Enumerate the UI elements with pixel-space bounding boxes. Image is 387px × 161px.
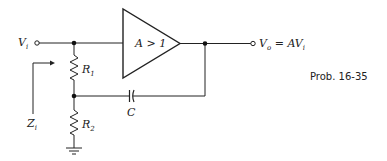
junction-input (72, 41, 77, 46)
amplifier-gain-label: A > 1 (135, 38, 166, 49)
arrowhead-icon (50, 61, 55, 66)
input-impedance-arrow (33, 63, 50, 114)
input-impedance-label: Zi (27, 118, 37, 132)
resistor-r2 (70, 110, 78, 135)
resistor-r1 (70, 55, 78, 80)
resistor-r1-label: R1 (82, 64, 95, 78)
resistor-r2-label: R2 (82, 119, 95, 133)
junction-divider (72, 94, 77, 99)
output-terminal (251, 41, 255, 45)
output-voltage-label: Vo = AVi (259, 38, 305, 52)
ground-icon (66, 148, 82, 154)
junction-output (203, 41, 208, 46)
problem-caption: Prob. 16-35 (310, 71, 368, 82)
input-terminal (35, 41, 39, 45)
input-voltage-label: Vi (18, 37, 28, 51)
capacitor-label: C (127, 107, 135, 118)
